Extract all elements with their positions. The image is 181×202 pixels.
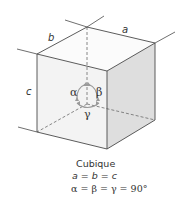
lattice-length-relation: a = b = c <box>70 170 160 182</box>
lattice-angle-relation: α = β = γ = 90° <box>70 182 160 195</box>
crystal-system-caption: Cubique a = b = c α = β = γ = 90° <box>70 158 160 195</box>
edge-label-c: c <box>26 86 32 97</box>
crystal-system-name: Cubique <box>70 158 160 170</box>
edge-label-a: a <box>122 24 128 35</box>
angle-label-alpha: α <box>70 86 78 99</box>
edge-label-b: b <box>48 32 54 43</box>
angle-label-beta: β <box>96 86 102 99</box>
angle-label-gamma: γ <box>84 108 91 121</box>
